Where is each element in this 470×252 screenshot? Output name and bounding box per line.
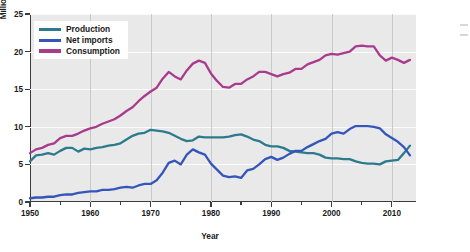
legend-swatch-icon bbox=[39, 39, 61, 42]
x-tick-minor bbox=[120, 202, 121, 205]
edge-mark-1 bbox=[460, 24, 468, 26]
x-axis-title: Year bbox=[30, 231, 390, 241]
y-tick-label: 10 bbox=[14, 122, 23, 131]
chart-legend: ProductionNet importsConsumption bbox=[34, 21, 128, 59]
x-tick-minor bbox=[240, 202, 241, 205]
x-tick-label: 1970 bbox=[142, 209, 160, 218]
x-tick bbox=[210, 202, 211, 207]
chart-figure: Million barrels per day 0510152025 19501… bbox=[0, 0, 470, 252]
y-axis-title: Million barrels per day bbox=[0, 0, 8, 52]
legend-item-production: Production bbox=[39, 25, 120, 33]
x-tick-minor bbox=[361, 202, 362, 205]
legend-label: Production bbox=[66, 25, 110, 33]
x-tick-label: 1950 bbox=[21, 209, 39, 218]
y-tick-label: 15 bbox=[14, 85, 23, 94]
y-tick-label: 20 bbox=[14, 47, 23, 56]
y-tick-label: 5 bbox=[18, 160, 23, 169]
x-tick bbox=[331, 202, 332, 207]
x-tick-label: 2010 bbox=[383, 209, 401, 218]
x-tick-label: 1960 bbox=[81, 209, 99, 218]
legend-item-net-imports: Net imports bbox=[39, 36, 120, 44]
legend-label: Net imports bbox=[66, 36, 113, 44]
x-tick bbox=[150, 202, 151, 207]
legend-item-consumption: Consumption bbox=[39, 47, 120, 55]
x-tick-label: 2000 bbox=[322, 209, 340, 218]
x-tick-label: 1990 bbox=[262, 209, 280, 218]
x-tick-minor bbox=[60, 202, 61, 205]
x-tick-label: 1980 bbox=[202, 209, 220, 218]
x-tick bbox=[271, 202, 272, 207]
x-tick bbox=[391, 202, 392, 207]
series-line-production bbox=[30, 130, 410, 165]
x-tick bbox=[29, 202, 30, 207]
x-tick-minor bbox=[301, 202, 302, 205]
edge-mark-2 bbox=[460, 34, 468, 36]
y-tick-label: 25 bbox=[14, 10, 23, 19]
x-tick bbox=[90, 202, 91, 207]
y-tick-label: 0 bbox=[18, 198, 23, 207]
x-tick-minor bbox=[180, 202, 181, 205]
legend-swatch-icon bbox=[39, 49, 61, 52]
legend-label: Consumption bbox=[66, 47, 120, 55]
legend-swatch-icon bbox=[39, 28, 61, 31]
